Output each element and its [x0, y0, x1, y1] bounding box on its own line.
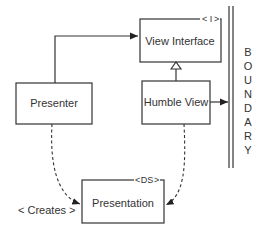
svg-text:<: <	[135, 175, 140, 185]
svg-text:Presenter: Presenter	[30, 97, 78, 109]
presenter-to-view-arrow	[55, 36, 138, 83]
inheritance-arrowhead-icon	[171, 62, 181, 69]
presentation-box: Presentation	[82, 180, 164, 223]
svg-text:N: N	[244, 88, 252, 100]
svg-text:DS: DS	[141, 175, 154, 185]
boundary-label: B O U N D A R Y	[244, 46, 253, 156]
humble-view-box: Humble View	[142, 81, 210, 124]
svg-text:R: R	[244, 130, 252, 142]
svg-text:B: B	[244, 46, 251, 58]
svg-text:O: O	[244, 60, 253, 72]
interface-stereotype: < I >	[200, 13, 220, 24]
svg-text:Presentation: Presentation	[92, 197, 154, 209]
architecture-diagram: B O U N D A R Y View Interface < I > Hum…	[0, 0, 263, 235]
creates-label: < Creates >	[18, 204, 75, 216]
presenter-box: Presenter	[16, 83, 92, 124]
svg-text:Y: Y	[244, 144, 252, 156]
creates-dependency-arrow	[52, 124, 80, 204]
svg-text:View Interface: View Interface	[145, 35, 215, 47]
svg-text:A: A	[244, 116, 252, 128]
svg-text:D: D	[244, 102, 252, 114]
svg-text:U: U	[244, 74, 252, 86]
svg-text:Humble View: Humble View	[144, 96, 209, 108]
svg-text:<: <	[202, 14, 207, 24]
uses-dependency-arrow	[166, 124, 185, 205]
svg-text:>: >	[214, 14, 219, 24]
svg-text:>: >	[154, 175, 159, 185]
svg-text:I: I	[210, 14, 213, 24]
data-structure-stereotype: < DS >	[134, 174, 160, 185]
view-interface-box: View Interface	[140, 19, 221, 62]
